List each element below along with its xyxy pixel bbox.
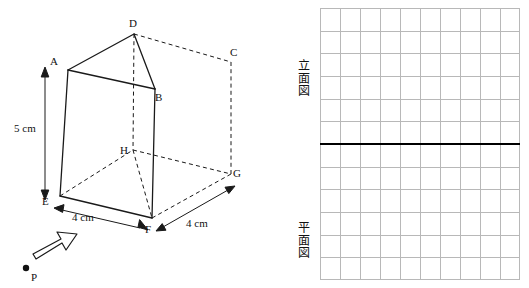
edge-D-H bbox=[133, 34, 134, 150]
edge-D-C bbox=[134, 34, 231, 62]
vertex-label-D: D bbox=[129, 18, 137, 29]
edge-B-F bbox=[152, 89, 155, 218]
solid-figure-panel: A D C B H G E F 5 cm 4 cm 4 cm P bbox=[0, 0, 310, 288]
height-measure bbox=[41, 67, 49, 200]
edge-H-F bbox=[133, 150, 152, 218]
front-width-measure bbox=[54, 205, 148, 230]
answer-grid-panel[interactable] bbox=[320, 8, 520, 280]
grid-label-front-view: 立面図 bbox=[297, 60, 311, 98]
grid-label-top-view: 平面図 bbox=[297, 222, 311, 260]
edge-A-B bbox=[68, 70, 155, 89]
edge-A-E bbox=[60, 70, 68, 196]
vertex-label-C: C bbox=[230, 47, 237, 58]
answer-grid-svg[interactable] bbox=[320, 8, 520, 280]
edge-H-G bbox=[133, 150, 231, 174]
direction-arrow bbox=[33, 232, 77, 259]
measure-label-depth: 4 cm bbox=[186, 218, 208, 229]
measure-label-height: 5 cm bbox=[14, 123, 36, 134]
edge-F-G bbox=[152, 174, 231, 218]
vertex-label-H: H bbox=[120, 145, 128, 156]
vertex-label-B: B bbox=[155, 92, 162, 103]
point-p-dot bbox=[23, 265, 29, 271]
diagram-root: A D C B H G E F 5 cm 4 cm 4 cm P 立面図 平面図 bbox=[0, 0, 529, 288]
vertex-label-A: A bbox=[50, 56, 58, 67]
point-label-P: P bbox=[31, 272, 37, 283]
measure-label-front-width: 4 cm bbox=[72, 212, 94, 223]
edge-D-B bbox=[134, 34, 155, 89]
edge-E-H bbox=[60, 150, 133, 196]
vertex-label-G: G bbox=[233, 168, 241, 179]
solid-figure-svg bbox=[0, 0, 310, 288]
vertex-label-F: F bbox=[145, 224, 151, 235]
edge-A-D bbox=[68, 34, 134, 70]
vertex-label-E: E bbox=[42, 196, 49, 207]
